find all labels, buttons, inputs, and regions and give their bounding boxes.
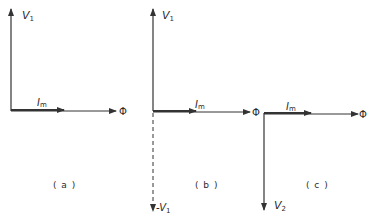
phasor-diagram-canvas: V1 Im Φ ( a ) V1 Im Φ -V1 ( b ) Im Φ V2 … [0,0,369,221]
v1-label: V1 [22,9,34,23]
im-label: Im [286,101,296,113]
panel-a: V1 Im Φ ( a ) [11,9,127,190]
im-label: Im [37,97,47,109]
caption-c: ( c ) [306,180,329,190]
caption-b: ( b ) [195,180,218,190]
panel-b: V1 Im Φ -V1 ( b ) [153,9,260,215]
caption-a: ( a ) [53,180,76,190]
v1-label: V1 [162,9,174,23]
neg-v1-label: -V1 [156,202,171,215]
phi-label: Φ [359,109,367,120]
v2-label: V2 [274,199,286,213]
im-label: Im [195,99,205,111]
phi-label: Φ [119,106,127,117]
panel-c: Im Φ V2 ( c ) [264,101,367,213]
phi-label: Φ [252,107,260,118]
